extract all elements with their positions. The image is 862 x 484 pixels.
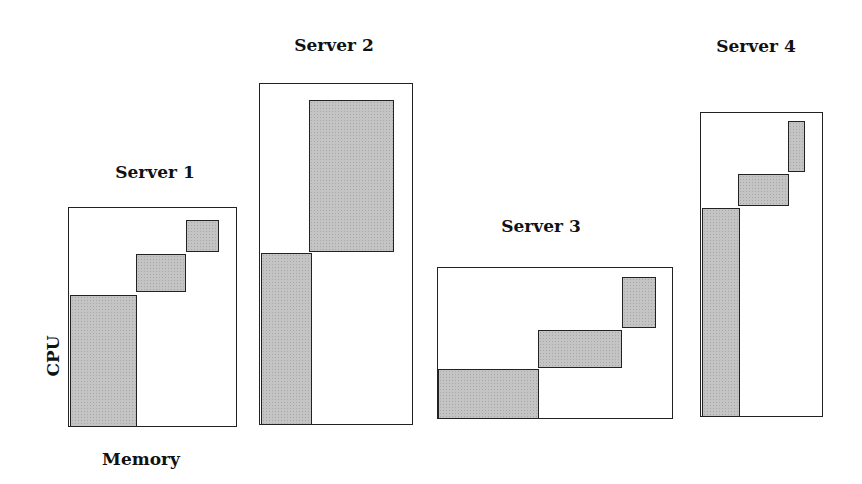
vm-allocation-block	[136, 254, 186, 292]
server-title: Server 2	[294, 35, 373, 55]
vm-allocation-block	[538, 330, 622, 368]
server-title: Server 3	[501, 216, 580, 236]
vm-allocation-block	[70, 295, 137, 427]
server-title: Server 1	[115, 162, 194, 182]
vm-allocation-block	[261, 253, 312, 425]
vm-allocation-block	[309, 100, 394, 252]
server-title: Server 4	[716, 36, 795, 56]
vm-allocation-block	[738, 174, 789, 206]
vm-allocation-block	[438, 369, 539, 419]
y-axis-label: CPU	[43, 335, 63, 376]
x-axis-label: Memory	[102, 449, 180, 469]
vm-allocation-block	[702, 208, 740, 417]
vm-allocation-block	[186, 220, 219, 252]
vm-allocation-block	[622, 277, 656, 328]
vm-allocation-block	[788, 121, 805, 172]
